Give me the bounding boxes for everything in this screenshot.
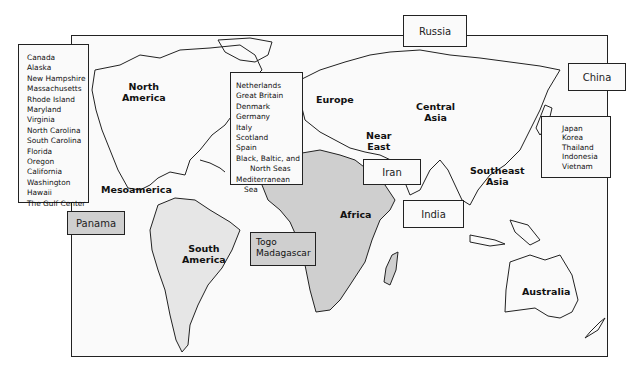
label-europe: Europe xyxy=(316,94,354,105)
indonesia-outline xyxy=(470,235,505,246)
list-item: Spain xyxy=(236,143,302,153)
asia-locations-list: Japan Korea Thailand Indonesia Vietnam xyxy=(562,124,610,171)
label-mesoamerica: Mesoamerica xyxy=(101,184,172,195)
list-item: Indonesia xyxy=(562,152,610,161)
list-item: Germany xyxy=(236,112,302,122)
list-item: Virginia xyxy=(27,115,88,125)
list-item: Netherlands xyxy=(236,81,302,91)
list-item: Hawaii xyxy=(27,188,88,198)
list-item: Sea xyxy=(236,185,302,195)
label-central-asia: Central Asia xyxy=(416,101,455,123)
russia-box: Russia xyxy=(403,15,467,47)
africa-locations-list: Togo Madagascar xyxy=(256,237,315,259)
list-item: Alaska xyxy=(27,63,88,73)
list-item: Scotland xyxy=(236,133,302,143)
list-item: North Carolina xyxy=(27,126,88,136)
list-item: Rhode Island xyxy=(27,95,88,105)
label-near-east: Near East xyxy=(366,130,392,152)
list-item: South Carolina xyxy=(27,136,88,146)
list-item: North Seas xyxy=(236,164,302,174)
label-australia: Australia xyxy=(522,286,570,297)
list-item: Vietnam xyxy=(562,162,610,171)
panama-label: Panama xyxy=(76,218,116,229)
south-america-outline xyxy=(150,198,240,352)
list-item: Canada xyxy=(27,53,88,63)
asia-locations-box: Japan Korea Thailand Indonesia Vietnam xyxy=(541,116,611,178)
label-africa: Africa xyxy=(340,209,371,220)
europe-locations-list: Netherlands Great Britain Denmark German… xyxy=(236,81,302,195)
china-box: China xyxy=(568,63,626,91)
list-item: Maryland xyxy=(27,105,88,115)
panama-box: Panama xyxy=(67,211,125,235)
list-item: Japan xyxy=(562,124,610,133)
europe-locations-box: Netherlands Great Britain Denmark German… xyxy=(230,72,303,185)
list-item: Thailand xyxy=(562,143,610,152)
new-zealand-outline xyxy=(585,318,605,338)
world-map-outline xyxy=(0,0,642,374)
list-item: Florida xyxy=(27,147,88,157)
india-label: India xyxy=(421,209,446,220)
americas-locations-box: Canada Alaska New Hampshire Massachusett… xyxy=(18,44,89,203)
list-item: Mediterranean xyxy=(236,175,302,185)
list-item: Washington xyxy=(27,178,88,188)
label-southeast-asia: Southeast Asia xyxy=(470,165,525,187)
iran-label: Iran xyxy=(382,167,402,178)
madagascar-outline xyxy=(384,252,398,285)
russia-label: Russia xyxy=(419,26,451,37)
china-label: China xyxy=(583,72,612,83)
india-box: India xyxy=(403,200,464,228)
list-item: Denmark xyxy=(236,102,302,112)
label-south-america: South America xyxy=(182,243,226,265)
africa-locations-box: Togo Madagascar xyxy=(250,232,316,266)
list-item: California xyxy=(27,167,88,177)
list-item: Madagascar xyxy=(256,248,315,259)
list-item: Italy xyxy=(236,123,302,133)
list-item: Massachusetts xyxy=(27,84,88,94)
list-item: Togo xyxy=(256,237,315,248)
list-item: Great Britain xyxy=(236,91,302,101)
iran-box: Iran xyxy=(363,159,421,185)
list-item: New Hampshire xyxy=(27,74,88,84)
label-north-america: North America xyxy=(122,81,166,103)
list-item: Korea xyxy=(562,133,610,142)
americas-locations-list: Canada Alaska New Hampshire Massachusett… xyxy=(27,53,88,209)
list-item: The Gulf Center xyxy=(27,199,88,209)
list-item: Oregon xyxy=(27,157,88,167)
list-item: Black, Baltic, and xyxy=(236,154,302,164)
